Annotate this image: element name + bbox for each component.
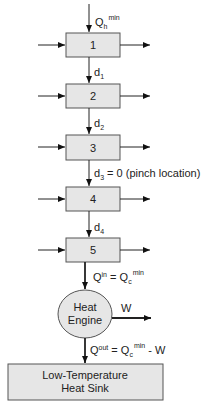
deficit-label-4: d4 bbox=[94, 221, 104, 235]
hot-utility-label: Qhmin bbox=[95, 14, 120, 30]
interval-label: 3 bbox=[90, 142, 96, 154]
heat-cascade-diagram: Qhmin 1 d1 2 d2 3 d3 = 0 (pinch location… bbox=[0, 0, 204, 410]
interval-label: 4 bbox=[90, 193, 96, 205]
interval-label: 2 bbox=[90, 90, 96, 102]
deficit-label-2: d2 bbox=[94, 117, 104, 131]
heat-sink-label-line1: Low-Temperature bbox=[42, 369, 128, 381]
low-temperature-heat-sink: Low-Temperature Heat Sink bbox=[8, 364, 163, 400]
interval-box-2: 2 bbox=[38, 84, 150, 108]
interval-box-1: 1 bbox=[38, 33, 150, 57]
interval-box-4: 4 bbox=[38, 187, 150, 211]
heat-out-label: Qout = Qcmin - W bbox=[90, 342, 166, 358]
work-label: W bbox=[121, 302, 132, 314]
interval-label: 5 bbox=[90, 244, 96, 256]
heat-engine-label-line2: Engine bbox=[68, 314, 102, 326]
heat-engine-label-line1: Heat bbox=[73, 301, 96, 313]
interval-label: 1 bbox=[90, 39, 96, 51]
heat-sink-label-line2: Heat Sink bbox=[61, 382, 109, 394]
interval-box-5: 5 bbox=[38, 238, 150, 262]
deficit-label-1: d1 bbox=[94, 66, 104, 80]
interval-box-3: 3 bbox=[38, 135, 150, 160]
deficit-label-3-pinch: d3 = 0 (pinch location) bbox=[94, 167, 200, 181]
heat-in-label: Qin = Qcmin bbox=[93, 269, 144, 285]
heat-engine: Heat Engine bbox=[58, 290, 112, 338]
